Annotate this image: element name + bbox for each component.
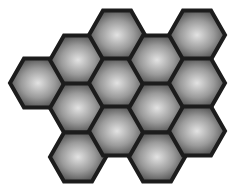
hexagon-11: [169, 59, 225, 108]
hexagon-12: [169, 107, 225, 156]
honeycomb-figure: [0, 0, 240, 190]
hexagon-10: [169, 11, 225, 60]
